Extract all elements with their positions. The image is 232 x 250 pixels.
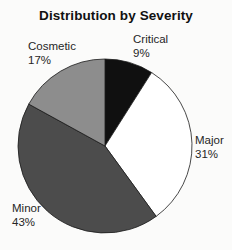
slice-label-cosmetic-name: Cosmetic — [28, 40, 76, 52]
slice-label-major: Major 31% — [195, 133, 224, 161]
slice-label-critical-name: Critical — [133, 33, 168, 45]
slice-label-major-name: Major — [195, 134, 224, 146]
slice-label-minor-value: 43% — [12, 215, 41, 229]
chart-container: Distribution by Severity Critical 9% Maj… — [0, 0, 232, 250]
slice-label-major-value: 31% — [195, 147, 224, 161]
slice-label-minor: Minor 43% — [12, 201, 41, 229]
slice-label-critical: Critical 9% — [133, 32, 168, 60]
slice-label-cosmetic-value: 17% — [28, 53, 76, 67]
slice-label-minor-name: Minor — [12, 202, 41, 214]
slice-label-critical-value: 9% — [133, 46, 168, 60]
slice-label-cosmetic: Cosmetic 17% — [28, 39, 76, 67]
